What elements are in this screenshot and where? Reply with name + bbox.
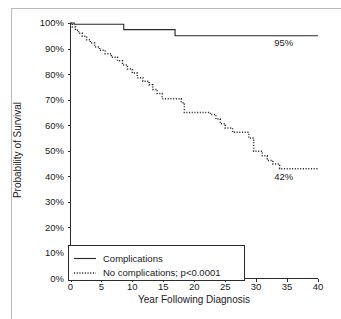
x-tick-label: 35	[282, 281, 293, 292]
annotation-42pct: 42%	[274, 171, 294, 182]
y-tick-label: 50%	[45, 145, 65, 156]
x-tick-label: 15	[158, 281, 169, 292]
annotation-95pct: 95%	[274, 37, 294, 48]
chart-legend: ComplicationsNo complications; p<0.0001	[69, 246, 245, 281]
x-axis-tick-labels: 0510152025303540	[68, 281, 323, 292]
y-tick-label: 10%	[45, 247, 65, 258]
y-tick-label: 100%	[40, 17, 65, 28]
x-tick-label: 5	[99, 281, 104, 292]
figure-root: 0%10%20%30%40%50%60%70%80%90%100% 051015…	[0, 0, 341, 319]
survival-chart: 0%10%20%30%40%50%60%70%80%90%100% 051015…	[0, 0, 341, 319]
x-axis-title: Year Following Diagnosis	[138, 294, 250, 305]
x-tick-label: 20	[189, 281, 200, 292]
x-tick-label: 0	[68, 281, 73, 292]
y-tick-label: 20%	[45, 222, 65, 233]
y-tick-label: 60%	[45, 120, 65, 131]
y-tick-label: 0%	[50, 273, 64, 284]
y-tick-label: 30%	[45, 196, 65, 207]
y-tick-label: 40%	[45, 171, 65, 182]
x-tick-label: 10	[127, 281, 138, 292]
y-tick-label: 70%	[45, 94, 65, 105]
y-axis-tick-labels: 0%10%20%30%40%50%60%70%80%90%100%	[40, 17, 65, 284]
legend-label-no-complications: No complications; p<0.0001	[103, 267, 221, 278]
plot-area	[70, 23, 318, 278]
y-tick-label: 80%	[45, 69, 65, 80]
legend-label-complications: Complications	[103, 253, 163, 264]
y-axis-title: Probability of Survival	[12, 102, 23, 198]
x-tick-label: 40	[313, 281, 324, 292]
x-tick-label: 30	[251, 281, 262, 292]
y-tick-label: 90%	[45, 43, 65, 54]
x-tick-label: 25	[220, 281, 231, 292]
